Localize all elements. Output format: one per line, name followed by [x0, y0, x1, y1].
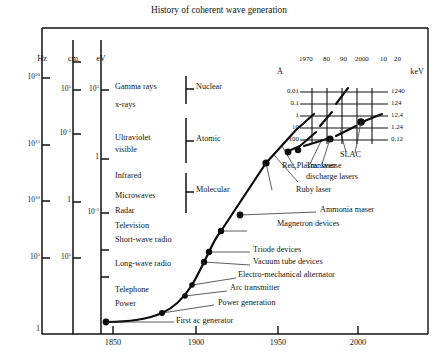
hz-tick-label: 105	[30, 252, 40, 261]
spectrum-band-label: Short-wave radio	[115, 236, 172, 244]
spectrum-band-label: x-rays	[115, 101, 135, 109]
inset-left-tick: 10	[292, 124, 299, 131]
inset-right-tick: 0.12	[391, 136, 403, 143]
curve-annotation: discharge lasers	[306, 173, 358, 181]
spectrum-band-label: Power	[115, 300, 136, 308]
curve-annotation: First ac generator	[176, 317, 233, 325]
curve-annotation: Electro-mechanical alternator	[238, 271, 335, 279]
ev-tick-label: 1	[95, 153, 99, 160]
inset-annotation: SLAC	[340, 151, 361, 159]
spectrum-band-label: Infrared	[115, 172, 141, 180]
cm-tick-label: 1	[67, 196, 71, 203]
inset-trend-lines	[286, 88, 382, 152]
cm-tick-label: 105	[61, 252, 71, 261]
inset-annotation: Rec.Plasm. laser	[282, 162, 336, 170]
year-tick-label: 1850	[105, 339, 121, 347]
spectrum-band-label: Ultraviolet	[115, 134, 150, 142]
hz-tick-label: 1	[36, 325, 40, 332]
cm-tick-label: 10-5	[59, 128, 71, 137]
figure-root: History of coherent wave generation	[0, 0, 438, 360]
transition-group-label: Molecular	[196, 186, 230, 194]
inset-left-tick: 0.01	[287, 88, 299, 95]
curve-annotation: Power generation	[218, 299, 276, 307]
inset-right-axis-name: keV	[410, 68, 424, 76]
hz-axis-label: Hz	[37, 55, 47, 63]
ev-tick-label: 10-5	[87, 207, 99, 216]
spectrum-band-label: Telephone	[115, 286, 149, 294]
inset-left-tick: 1	[296, 112, 299, 119]
inset-right-tick: 12.4	[391, 112, 403, 119]
hz-axis	[42, 28, 50, 334]
inset-x-label: 80	[323, 56, 330, 63]
inset-x-label: 20	[394, 56, 401, 63]
year-tick-label: 1950	[270, 339, 286, 347]
hz-tick-label: 1020	[28, 72, 40, 81]
curve-annotation: Arc transmitter	[230, 284, 280, 292]
inset-left-axis-name: Å	[277, 68, 283, 76]
year-tick-label: 2000	[350, 339, 366, 347]
spectrum-band-label: Gamma rays	[115, 83, 157, 91]
cm-axis-label: cm	[68, 55, 78, 63]
cm-tick-label: 105	[61, 84, 71, 93]
inset-left-tick: 0.1	[290, 100, 299, 107]
inset-left-tick: 100	[289, 136, 299, 143]
year-tick-label: 1900	[188, 339, 204, 347]
curve-annotation: Magnetron devices	[277, 220, 340, 228]
inset-x-label: 90	[340, 56, 347, 63]
spectrum-band-label: Radar	[115, 207, 135, 215]
ev-axis-label: eV	[96, 55, 106, 63]
ev-tick-label: 105	[89, 84, 99, 93]
curve-annotation: Vacuum tube devices	[253, 258, 323, 266]
spectrum-band-label: visible	[115, 146, 137, 154]
transition-brackets	[186, 76, 194, 213]
curve-annotation: Ruby laser	[296, 186, 331, 194]
inset-right-tick: 1.24	[391, 124, 403, 131]
inset-right-tick: 1240	[391, 88, 405, 95]
spectrum-band-label: Television	[115, 222, 149, 230]
hz-tick-label: 1015	[28, 139, 40, 148]
inset-x-label: 2000	[355, 56, 369, 63]
inset-x-label: 10	[380, 56, 387, 63]
curve-annotation: Ammonia maser	[320, 206, 374, 214]
cm-axis	[73, 40, 81, 334]
inset-right-tick: 124	[391, 100, 401, 107]
hz-tick-label: 1010	[28, 195, 40, 204]
curve-annotation: Triode devices	[253, 246, 301, 254]
transition-group-label: Nuclear	[196, 83, 222, 91]
transition-group-label: Atomic	[196, 135, 221, 143]
year-axis-ticks	[113, 326, 358, 334]
spectrum-band-label: Microwaves	[115, 192, 155, 200]
spectrum-band-label: Long-wave radio	[115, 260, 171, 268]
ev-axis	[101, 40, 109, 334]
inset-x-label: 1970	[299, 56, 313, 63]
